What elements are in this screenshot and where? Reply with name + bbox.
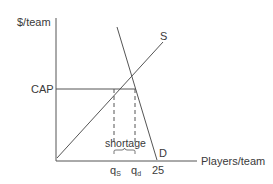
qs-subscript: S bbox=[116, 170, 121, 177]
qs-tick-label: qS bbox=[110, 165, 121, 177]
x-axis-label: Players/team bbox=[201, 156, 265, 167]
supply-label: S bbox=[160, 31, 167, 42]
y-axis-label: $/team bbox=[17, 17, 51, 28]
qd-subscript: d bbox=[137, 170, 141, 177]
qd-tick-label: qd bbox=[131, 165, 141, 177]
shortage-label: shortage bbox=[105, 138, 146, 149]
demand-label: D bbox=[159, 148, 167, 159]
cap-label: CAP bbox=[31, 84, 54, 95]
max-tick-label: 25 bbox=[152, 165, 164, 176]
